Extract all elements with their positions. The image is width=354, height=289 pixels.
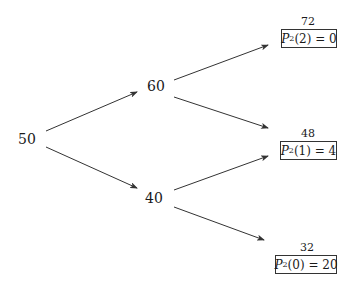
edge-50-to-60 [46,92,137,131]
leaf-price-ud: 48 [301,128,315,139]
payoff-symbol: P [281,144,289,158]
down-node: 40 [145,191,163,205]
payoff-arg: (0) [288,258,305,272]
leaf-payoff-dd: P2(0) = 20 [275,255,337,274]
payoff-arg: (2) [294,32,311,46]
edge-50-to-40 [46,147,137,188]
edge-40-to-48 [174,156,268,190]
payoff-eq: = 0 [311,32,336,46]
leaf-price-uu: 72 [301,16,315,27]
edge-40-to-32 [174,207,264,240]
leaf-price-dd: 32 [300,242,314,253]
edge-60-to-48 [174,97,268,128]
payoff-arg: (1) [294,144,311,158]
root-node: 50 [18,132,36,146]
payoff-eq: = 20 [305,258,338,272]
up-node: 60 [147,79,165,93]
edge-60-to-72 [174,45,268,80]
payoff-symbol: P [281,32,289,46]
leaf-payoff-ud: P2(1) = 4 [280,141,337,160]
leaf-payoff-uu: P2(2) = 0 [281,29,337,48]
payoff-symbol: P [274,258,282,272]
payoff-eq: = 4 [311,144,336,158]
binomial-tree-diagram: 50 60 40 72 P2(2) = 0 48 P2(1) = 4 32 P2… [0,0,354,289]
